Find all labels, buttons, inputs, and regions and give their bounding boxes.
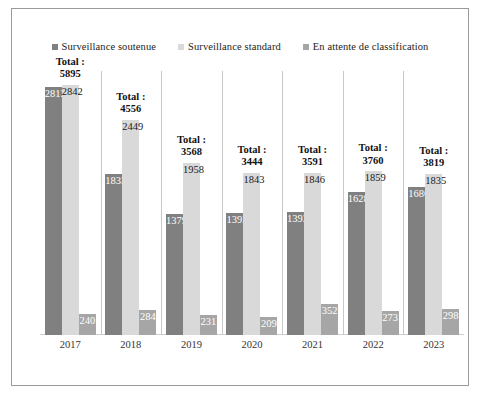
group-total-value: 3444 — [237, 156, 266, 169]
bar-value-label: 2813 — [45, 88, 62, 100]
bar-group-2020: 13921843209Total :3444 — [222, 71, 283, 335]
group-total-value: 3591 — [298, 156, 327, 169]
bar-group-bars: 16861835298 — [403, 71, 464, 335]
x-axis-tick-2017: 2017 — [60, 339, 81, 350]
bar-group-2022: 16281859273Total :3760 — [343, 71, 404, 335]
bar-value-label: 2842 — [62, 86, 79, 98]
group-total-prefix: Total : — [56, 56, 85, 69]
bar-group-2019: 13791958231Total :3568 — [161, 71, 222, 335]
bar-value-label: 2449 — [122, 121, 139, 133]
bar-value-label: 1379 — [166, 215, 183, 227]
bar-value-label: 1859 — [365, 172, 382, 184]
chart-figure-frame: Surveillance soutenue Surveillance stand… — [11, 8, 469, 386]
bar-value-label: 298 — [442, 310, 459, 322]
bar-value-label: 1686 — [408, 188, 425, 200]
group-total-prefix: Total : — [237, 144, 266, 157]
group-total-label: Total :3591 — [298, 144, 327, 169]
x-axis-tick-2019: 2019 — [181, 339, 202, 350]
x-axis-tick-2023: 2023 — [423, 339, 444, 350]
legend-item-surveillance-standard[interactable]: Surveillance standard — [178, 41, 281, 52]
group-total-label: Total :5895 — [56, 56, 85, 81]
bar-value-label: 1628 — [348, 193, 365, 205]
bar-2020-series-1[interactable]: 1392 — [226, 213, 243, 335]
bar-value-label: 240 — [79, 315, 96, 327]
bar-value-label: 209 — [260, 318, 277, 330]
x-axis-tick-2022: 2022 — [363, 339, 384, 350]
bar-group-2021: 13931846352Total :3591 — [282, 71, 343, 335]
legend-item-surveillance-soutenue[interactable]: Surveillance soutenue — [52, 41, 157, 52]
group-total-label: Total :3444 — [237, 144, 266, 169]
bar-2021-series-3[interactable]: 352 — [321, 304, 338, 335]
x-axis-tick-2018: 2018 — [120, 339, 141, 350]
legend-label-standard: Surveillance standard — [188, 41, 281, 52]
bar-2020-series-3[interactable]: 209 — [260, 317, 277, 335]
legend-swatch-icon-soutenue — [52, 44, 58, 50]
group-total-value: 4556 — [116, 103, 145, 116]
bar-2023-series-1[interactable]: 1686 — [408, 187, 425, 335]
bar-2022-series-3[interactable]: 273 — [382, 311, 399, 335]
bar-group-2018: 18332449284Total :4556 — [101, 71, 162, 335]
bar-2022-series-1[interactable]: 1628 — [348, 192, 365, 335]
group-total-label: Total :3819 — [419, 145, 448, 170]
bar-2023-series-3[interactable]: 298 — [442, 309, 459, 335]
bar-value-label: 1843 — [243, 174, 260, 186]
bar-2018-series-3[interactable]: 284 — [139, 310, 156, 335]
group-total-label: Total :3568 — [177, 134, 206, 159]
legend-swatch-icon-standard — [178, 44, 184, 50]
group-total-prefix: Total : — [177, 134, 206, 147]
x-axis-tick-2021: 2021 — [302, 339, 323, 350]
bar-2019-series-2[interactable]: 1958 — [183, 163, 200, 335]
legend-label-en-attente: En attente de classification — [313, 41, 429, 52]
bar-value-label: 352 — [321, 305, 338, 317]
legend-label-soutenue: Surveillance soutenue — [62, 41, 157, 52]
bar-group-2017: 28132842240Total :5895 — [40, 71, 101, 335]
chart-legend: Surveillance soutenue Surveillance stand… — [12, 41, 468, 52]
group-total-value: 3760 — [359, 155, 388, 168]
bar-group-bars: 13931846352 — [282, 71, 343, 335]
legend-item-en-attente[interactable]: En attente de classification — [303, 41, 429, 52]
chart-plot-area: 28132842240Total :589518332449284Total :… — [40, 71, 464, 335]
group-total-value: 5895 — [56, 68, 85, 81]
group-total-value: 3568 — [177, 146, 206, 159]
bar-2019-series-1[interactable]: 1379 — [166, 214, 183, 335]
legend-swatch-icon-en-attente — [303, 44, 309, 50]
bar-value-label: 1846 — [304, 174, 321, 186]
bar-value-label: 231 — [200, 316, 217, 328]
x-axis-tick-2020: 2020 — [242, 339, 263, 350]
bar-value-label: 1835 — [425, 175, 442, 187]
chart-x-axis: 2017201820192020202120222023 — [40, 339, 464, 361]
bar-value-label: 284 — [139, 311, 156, 323]
bar-2023-series-2[interactable]: 1835 — [425, 174, 442, 335]
bar-group-2023: 16861835298Total :3819 — [403, 71, 464, 335]
bar-value-label: 1833 — [105, 175, 122, 187]
bar-2020-series-2[interactable]: 1843 — [243, 173, 260, 335]
bar-2018-series-2[interactable]: 2449 — [122, 120, 139, 336]
bar-2021-series-1[interactable]: 1393 — [287, 212, 304, 335]
group-total-label: Total :3760 — [359, 142, 388, 167]
bar-group-bars: 13921843209 — [222, 71, 283, 335]
bar-2017-series-3[interactable]: 240 — [79, 314, 96, 335]
group-total-value: 3819 — [419, 157, 448, 170]
bar-2017-series-2[interactable]: 2842 — [62, 85, 79, 335]
group-total-prefix: Total : — [298, 144, 327, 157]
group-total-prefix: Total : — [359, 142, 388, 155]
bar-value-label: 273 — [382, 312, 399, 324]
bar-value-label: 1393 — [287, 213, 304, 225]
bar-2019-series-3[interactable]: 231 — [200, 315, 217, 335]
group-total-prefix: Total : — [116, 91, 145, 104]
bar-group-bars: 28132842240 — [40, 71, 101, 335]
group-total-prefix: Total : — [419, 145, 448, 158]
bar-2021-series-2[interactable]: 1846 — [304, 173, 321, 335]
bar-value-label: 1392 — [226, 214, 243, 226]
bar-2022-series-2[interactable]: 1859 — [365, 171, 382, 335]
group-total-label: Total :4556 — [116, 91, 145, 116]
bar-value-label: 1958 — [183, 164, 200, 176]
bar-group-bars: 13791958231 — [161, 71, 222, 335]
bar-2018-series-1[interactable]: 1833 — [105, 174, 122, 335]
bar-group-bars: 16281859273 — [343, 71, 404, 335]
bar-2017-series-1[interactable]: 2813 — [45, 87, 62, 335]
